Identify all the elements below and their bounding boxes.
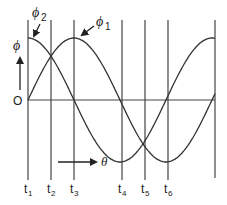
svg-text:2: 2 (51, 189, 56, 198)
phi1-label: ϕ 1 (96, 14, 111, 32)
phi2-label: ϕ 2 (32, 5, 47, 23)
theta-label: θ (101, 154, 108, 169)
origin-label: O (13, 94, 22, 108)
time-label-t6: t6 (164, 182, 173, 198)
svg-text:1: 1 (105, 21, 111, 32)
phi-axis-label: ϕ (13, 38, 20, 53)
svg-text:ϕ: ϕ (32, 5, 39, 20)
time-label-t1: t1 (24, 182, 33, 198)
time-label-t3: t3 (70, 182, 79, 198)
svg-text:1: 1 (28, 189, 33, 198)
svg-text:3: 3 (74, 189, 79, 198)
svg-text:ϕ: ϕ (96, 14, 103, 29)
flux-waveform-diagram: ϕ O θ ϕ 2 ϕ 1 t1 t2 t3 t4 t5 t6 (0, 0, 227, 205)
time-label-t2: t2 (47, 182, 56, 198)
time-label-t5: t5 (141, 182, 150, 198)
svg-text:2: 2 (41, 12, 47, 23)
phi2-pointer-arrow (34, 24, 40, 36)
svg-text:6: 6 (168, 189, 173, 198)
svg-text:4: 4 (122, 189, 127, 198)
time-label-t4: t4 (118, 182, 127, 198)
phi1-pointer-arrow (82, 26, 94, 35)
svg-text:5: 5 (145, 189, 150, 198)
